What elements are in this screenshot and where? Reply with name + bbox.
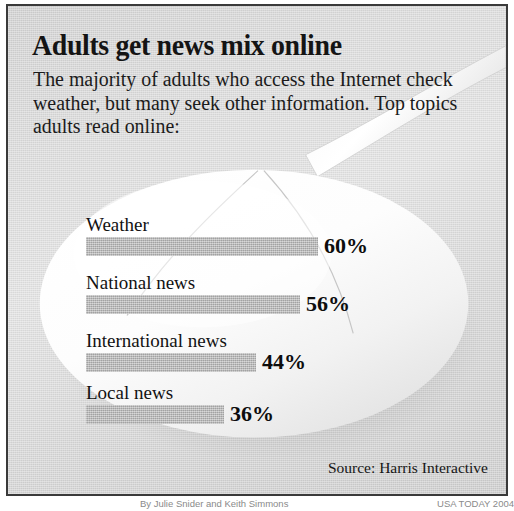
- bar-value: 44%: [262, 349, 306, 375]
- bar-row: 60%: [86, 237, 149, 256]
- bar-item-national-news: National news 56%: [86, 272, 195, 314]
- bar-item-local-news: Local news 36%: [86, 382, 173, 424]
- bar-row: 36%: [86, 405, 173, 424]
- bar-fill: [86, 353, 256, 372]
- bar-value: 56%: [306, 291, 350, 317]
- bar-label: International news: [86, 330, 227, 351]
- bar-value: 36%: [230, 401, 274, 427]
- bar-label: Local news: [86, 382, 173, 403]
- bar-row: 56%: [86, 295, 195, 314]
- bar-fill: [86, 405, 224, 424]
- bar-fill: [86, 237, 318, 256]
- source-attribution: Source: Harris Interactive: [328, 459, 488, 477]
- bar-label: National news: [86, 272, 195, 293]
- infographic-root: Adults get news mix online The majority …: [0, 0, 514, 511]
- credit-line: By Julie Snider and Keith Simmons USA TO…: [0, 500, 514, 511]
- credit-publisher: USA TODAY 2004: [437, 500, 514, 509]
- bar-value: 60%: [324, 233, 368, 259]
- bar-item-international-news: International news 44%: [86, 330, 227, 372]
- bar-item-weather: Weather 60%: [86, 214, 149, 256]
- bar-row: 44%: [86, 353, 227, 372]
- bar-chart: Weather 60% National news 56% Internatio…: [0, 0, 514, 511]
- bar-label: Weather: [86, 214, 149, 235]
- credit-byline: By Julie Snider and Keith Simmons: [140, 500, 288, 509]
- bar-fill: [86, 295, 300, 314]
